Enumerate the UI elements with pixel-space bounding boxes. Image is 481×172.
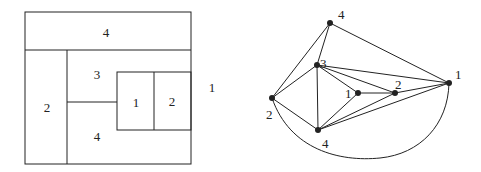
node-label-left: 2: [266, 107, 273, 122]
region-label-top: 4: [103, 25, 110, 40]
graph-nodes: [269, 20, 452, 133]
node-label-inner2: 2: [395, 77, 402, 92]
node-right: [446, 80, 452, 86]
node-inner1: [355, 90, 361, 96]
node-label-bottom: 4: [322, 136, 329, 151]
node-label-top: 4: [338, 7, 345, 22]
diagram-canvas: 4 2 3 4 1 2 1 4 3 2 4 1: [0, 0, 481, 172]
node-label-right: 1: [455, 67, 462, 82]
region-label-inner-left: 1: [133, 95, 140, 110]
node-bottom: [315, 127, 321, 133]
region-label-outside: 1: [209, 80, 216, 95]
region-label-mid-lower: 4: [94, 129, 101, 144]
node-label-3: 3: [320, 56, 327, 71]
node-top: [327, 20, 333, 26]
node-labels: 4 3 2 4 1 2 1: [266, 7, 462, 151]
region-label-mid-upper: 3: [94, 67, 101, 82]
node-label-inner1: 1: [345, 86, 352, 101]
region-labels: 4 2 3 4 1 2 1: [44, 25, 216, 144]
node-left: [269, 95, 275, 101]
region-label-inner-right: 2: [169, 94, 176, 109]
region-label-left: 2: [44, 100, 51, 115]
graph-edges: [272, 23, 449, 159]
